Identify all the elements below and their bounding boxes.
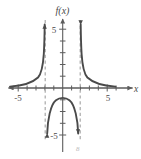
y-tick-label-pos5: 5	[52, 25, 57, 35]
y-axis	[59, 19, 66, 152]
function-graph: f(x) x -5 5 5 -5	[0, 0, 141, 159]
x-tick-label-neg5: -5	[14, 93, 22, 103]
curve-right-branch	[81, 25, 116, 87]
y-tick-label-neg5: -5	[50, 131, 58, 141]
x-axis-label: x	[133, 84, 139, 94]
y-axis-label: f(x)	[56, 5, 71, 17]
x-tick-label-pos5: 5	[106, 93, 111, 103]
x-axis	[8, 85, 133, 92]
figure-caption: 8	[76, 146, 80, 153]
figure-container: f(x) x -5 5 5 -5 8	[0, 0, 141, 159]
curve-left-branch	[10, 25, 45, 87]
